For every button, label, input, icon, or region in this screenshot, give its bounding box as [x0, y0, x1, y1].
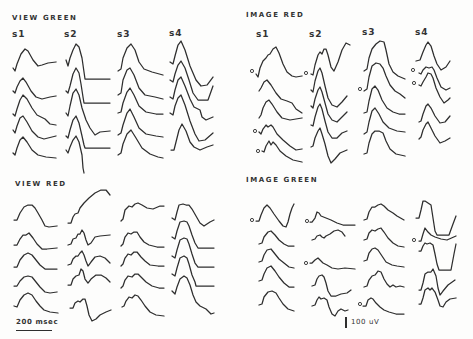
waveform-trace [311, 87, 347, 122]
stimulus-marker-icon [358, 302, 361, 305]
waveform-trace [118, 130, 163, 158]
waveform-trace [312, 275, 351, 296]
waveform-trace [419, 67, 450, 90]
stimulus-marker-icon [304, 71, 307, 74]
waveform-trace [259, 291, 294, 311]
waveform-trace [68, 230, 110, 245]
waveform-trace [121, 252, 164, 266]
waveform-trace [310, 212, 355, 225]
waveform-trace [364, 108, 405, 134]
waveform-trace [259, 80, 302, 113]
waveform-trace [419, 104, 450, 123]
figure: VIEW GREEN s1 s2 s3 s4 IMAGE RED s1 s2 s… [0, 0, 473, 339]
panel-title-image-green: IMAGE GREEN [246, 176, 318, 184]
waveform-trace [13, 116, 56, 139]
waveform-trace [364, 204, 404, 220]
waveform-trace [170, 41, 213, 86]
time-scale-bar [16, 330, 52, 331]
waveform-trace [256, 47, 302, 77]
waveform-trace [172, 276, 214, 314]
waveform-trace [121, 232, 164, 247]
waveform-trace [419, 73, 450, 103]
waveform-trace [311, 68, 347, 107]
waveform-trace [419, 288, 456, 307]
waveform-trace [118, 44, 163, 75]
waveform-trace [68, 269, 110, 285]
waveform-trace [70, 299, 111, 321]
waveform-trace [122, 295, 164, 316]
waveform-trace [416, 201, 456, 235]
view-green-col-s2: s2 [64, 29, 78, 39]
view-red-traces [14, 190, 214, 321]
waveform-trace [364, 63, 405, 98]
waveform-trace [66, 89, 110, 135]
stimulus-marker-icon [304, 261, 307, 264]
stimulus-marker-icon [412, 81, 415, 84]
waveform-trace [14, 276, 57, 293]
waveform-trace [259, 266, 294, 287]
stimulus-marker-icon [250, 218, 253, 221]
stimulus-marker-icon [358, 87, 361, 90]
stimulus-marker-icon [253, 129, 256, 132]
stimulus-marker-icon [305, 219, 308, 222]
stimulus-marker-icon [412, 238, 415, 241]
image-green-traces [256, 201, 456, 316]
waveform-trace [259, 249, 294, 268]
waveform-trace [14, 293, 58, 313]
waveform-trace [364, 248, 404, 267]
view-green-traces [13, 41, 213, 173]
view-green-col-s4: s4 [169, 28, 183, 38]
waveform-trace [13, 137, 56, 158]
stimulus-marker-icon [256, 149, 259, 152]
waveform-trace [363, 298, 404, 314]
waveform-trace [14, 233, 57, 249]
image-red-col-s2: s2 [309, 29, 323, 39]
waveform-trace [364, 86, 405, 114]
view-green-col-s3: s3 [117, 29, 131, 39]
waveform-trace [259, 100, 302, 120]
voltage-scale-bar [345, 317, 347, 328]
waveform-trace [13, 49, 56, 71]
view-green-col-s1: s1 [12, 29, 26, 39]
voltage-scale-label: 100 uV [351, 318, 379, 326]
waveform-trace [118, 88, 163, 114]
waveform-trace [416, 42, 450, 70]
waveform-trace [170, 61, 213, 100]
stimulus-marker-icon [411, 68, 414, 71]
image-red-col-s1: s1 [256, 29, 270, 39]
waveform-trace [256, 204, 294, 227]
waveform-trace [170, 77, 213, 120]
waveform-trace [172, 256, 214, 286]
waveform-trace [172, 204, 214, 226]
waveform-trace [259, 231, 294, 246]
image-red-col-s4: s4 [415, 27, 429, 37]
waveform-trace [118, 109, 163, 137]
waveform-trace [364, 271, 404, 287]
panel-title-view-green: VIEW GREEN [12, 14, 78, 22]
waveform-trace [311, 43, 350, 75]
waveform-trace [14, 253, 57, 269]
waveform-trace [310, 258, 355, 269]
waveform-trace [419, 122, 450, 143]
waveform-trace [262, 141, 302, 162]
waveform-trace [121, 274, 164, 288]
image-red-traces [256, 41, 450, 163]
waveform-trace [14, 205, 57, 227]
waveform-trace [68, 251, 110, 266]
time-scale-label: 200 msec [16, 318, 58, 326]
waveform-trace [121, 203, 164, 221]
waveform-trace [13, 78, 56, 99]
waveform-trace [312, 230, 345, 240]
panel-title-image-red: IMAGE RED [246, 11, 304, 19]
waveform-trace [364, 228, 404, 247]
panel-title-view-red: VIEW RED [15, 180, 67, 188]
waveform-trace [66, 136, 84, 173]
waveform-trace [312, 297, 348, 316]
stimulus-marker-icon [250, 69, 253, 72]
waveform-trace [419, 243, 456, 270]
image-red-col-s3: s3 [362, 27, 376, 37]
waveform-trace [68, 190, 110, 223]
stimulus-markers [250, 68, 415, 305]
waveform-traces [0, 0, 473, 339]
waveform-trace [66, 68, 110, 103]
